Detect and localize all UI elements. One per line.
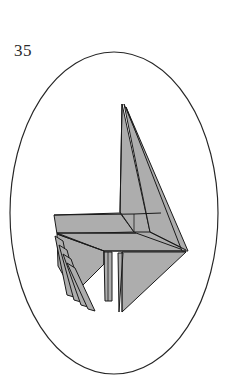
facet-tail-lower-triangle: [122, 252, 186, 312]
origami-model: [54, 104, 188, 312]
origami-figure-page: 35: [0, 0, 230, 386]
figure-canvas: [0, 0, 230, 386]
facet-body-upper-left: [54, 213, 134, 234]
